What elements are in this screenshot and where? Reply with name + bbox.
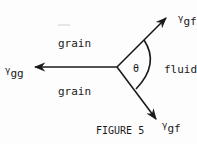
figure-caption: FIGURE 5 — [96, 126, 144, 136]
theta-label: θ — [133, 64, 139, 74]
subscript: gf — [167, 122, 180, 135]
gamma-gf-upper-label: γgf — [178, 8, 197, 24]
gamma-gf-lower-arrow — [117, 67, 156, 119]
figure-5-diagram: grain grain fluid θ FIGURE 5 γgg γgf γgf — [0, 0, 197, 144]
gamma-gf-lower-label: γgf — [162, 115, 181, 131]
grain-bottom-label: grain — [58, 86, 91, 97]
fluid-label: fluid — [164, 64, 197, 75]
subscript: gg — [10, 67, 23, 80]
subscript: gf — [183, 15, 196, 28]
gamma-gg-label: γgg — [5, 60, 24, 76]
grain-top-label: grain — [58, 38, 91, 49]
gamma-gf-upper-arrow — [117, 18, 166, 67]
